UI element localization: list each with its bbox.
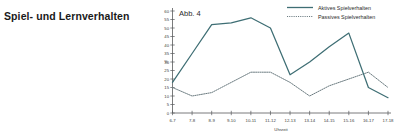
x-tick-label: 10-11 <box>246 118 257 123</box>
x-tick-label: 6-7 <box>169 118 176 123</box>
x-tick-label: 11-12 <box>265 118 276 123</box>
x-tick-label: 9-10 <box>227 118 236 123</box>
page-root: Spiel- und Lernverhalten 051015202530354… <box>0 0 395 138</box>
x-tick-label: 17-18 <box>383 118 395 123</box>
y-axis-unit-label: % <box>164 59 168 64</box>
y-tick-label: 50 <box>164 26 169 31</box>
legend-label-active: Aktives Spielverhalten <box>318 5 371 11</box>
y-tick-label: 55 <box>164 17 169 22</box>
y-tick-label: 40 <box>164 43 169 48</box>
y-tick-label: 0 <box>167 111 170 116</box>
x-tick-label: 8-9 <box>209 118 216 123</box>
x-tick-label: 7-8 <box>189 118 196 123</box>
chart-title: Abb. 4 <box>179 9 201 18</box>
x-tick-label: 14-15 <box>324 118 336 123</box>
series-line-passive-spielverhalten <box>173 72 389 96</box>
y-tick-label: 25 <box>164 68 169 73</box>
section-heading: Spiel- und Lernverhalten <box>4 10 154 23</box>
series-line-aktives-spielverhalten <box>173 18 389 98</box>
y-tick-label: 45 <box>164 34 169 39</box>
figure-container: 051015202530354045505560 6-77-88-99-1010… <box>155 0 395 138</box>
x-tick-label: 16-17 <box>363 118 375 123</box>
x-tick-label: 12-13 <box>285 118 297 123</box>
legend-label-passive: Passives Spielverhalten <box>318 14 375 20</box>
line-chart: 051015202530354045505560 6-77-88-99-1010… <box>155 0 395 138</box>
x-tick-label: 13-14 <box>304 118 316 123</box>
x-tick-label: 15-16 <box>343 118 355 123</box>
chart-legend: Aktives Spielverhalten Passives Spielver… <box>287 5 375 20</box>
y-tick-label: 20 <box>164 77 169 82</box>
y-tick-label: 10 <box>164 94 169 99</box>
y-tick-label: 5 <box>167 102 170 107</box>
x-axis-title: Uhrzeit <box>274 127 288 132</box>
y-tick-label: 15 <box>164 85 169 90</box>
y-tick-label: 60 <box>164 9 169 14</box>
y-tick-label: 35 <box>164 51 169 56</box>
